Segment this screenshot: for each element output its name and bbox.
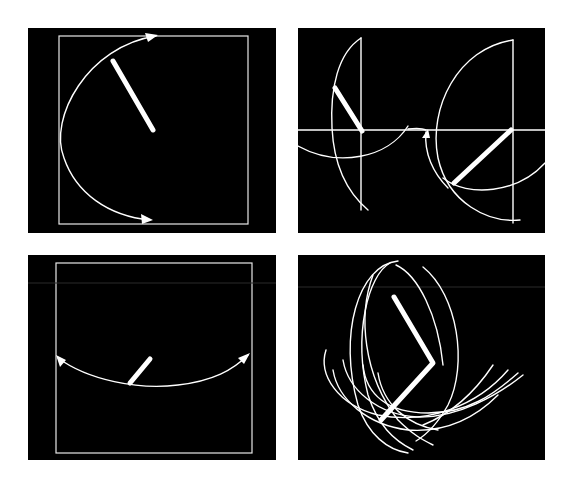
square-frame [56, 263, 252, 453]
panel-bottom-left: Short rod at bottom of square frame with… [28, 255, 276, 460]
rod [113, 61, 153, 130]
trace-curve [350, 261, 408, 453]
panel-top-right: Two rods on a horizontal axis, each with… [298, 28, 545, 233]
panel-top-left: Rod pivoting from center within square f… [28, 28, 276, 233]
arrow-bottom-icon [141, 214, 153, 224]
double-rod-diagram [298, 28, 545, 233]
left-rod [335, 88, 362, 131]
panel-bottom-right: Bent two-segment rod with many overlappi… [298, 255, 545, 460]
pendulum-arc-diagram [28, 28, 276, 233]
trace-curve [365, 275, 433, 445]
trace-curve [362, 263, 413, 450]
trace-curve [363, 365, 518, 413]
arrow-top-icon [145, 33, 158, 42]
trace-curve [378, 373, 438, 430]
right-rod [454, 130, 511, 183]
left-arc [332, 38, 368, 210]
swing-arc [60, 36, 156, 220]
bent-rod-traces-diagram [298, 255, 545, 460]
short-rod-arc-diagram [28, 255, 276, 460]
left-swing-arc [298, 126, 408, 158]
rod [130, 359, 150, 383]
swing-arc [58, 355, 248, 386]
arrow-left-icon [56, 355, 66, 367]
